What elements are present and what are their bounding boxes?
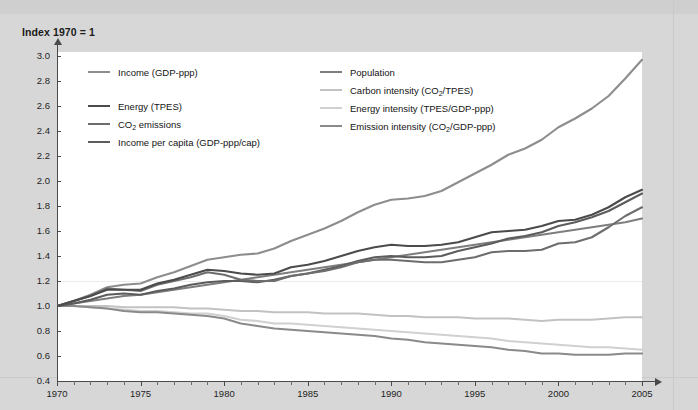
y-tick-label: 2.6 <box>26 100 50 111</box>
x-tick-label: 1975 <box>121 388 161 399</box>
y-tick-label: 1.8 <box>26 200 50 211</box>
legend-label-income_per_capita: Income per capita (GDP-ppp/cap) <box>118 137 260 148</box>
gridline-1-2 <box>57 281 642 282</box>
chart-page: Index 1970 = 1 3.02.82.62.42.22.01.81.61… <box>0 0 698 410</box>
legend-swatch-energy_intensity <box>320 107 342 110</box>
x-tick-mark-minor <box>625 381 626 385</box>
y-axis-arrow-icon <box>54 38 62 45</box>
y-tick-mark <box>57 331 61 332</box>
y-tick-label: 2.8 <box>26 75 50 86</box>
legend-right-column: PopulationCarbon intensity (CO2/TPES)Ene… <box>320 66 495 132</box>
legend-label-energy: Energy (TPES) <box>118 101 182 112</box>
y-tick-label: 1.4 <box>26 250 50 261</box>
legend-label-income: Income (GDP-ppp) <box>118 67 198 78</box>
x-tick-mark-major <box>642 381 643 386</box>
y-tick-mark <box>57 131 61 132</box>
x-tick-mark-minor <box>425 381 426 385</box>
legend-item-carbon_intensity[interactable]: Carbon intensity (CO2/TPES) <box>320 84 495 96</box>
x-axis-arrow-icon <box>655 378 662 386</box>
x-tick-mark-minor <box>441 381 442 385</box>
legend-item-energy[interactable]: Energy (TPES) <box>88 100 260 112</box>
x-tick-mark-major <box>57 381 58 386</box>
y-tick-label: 3.0 <box>26 50 50 61</box>
legend-item-income[interactable]: Income (GDP-ppp) <box>88 66 260 78</box>
x-tick-mark-major <box>141 381 142 386</box>
legend-swatch-income_per_capita <box>88 141 110 144</box>
y-tick-label: 2.2 <box>26 150 50 161</box>
y-tick-label: 2.0 <box>26 175 50 186</box>
y-tick-label: 0.6 <box>26 350 50 361</box>
legend-swatch-emission_intensity <box>320 125 342 128</box>
x-axis-line <box>57 381 655 382</box>
y-tick-mark <box>57 356 61 357</box>
legend-item-income_per_capita[interactable]: Income per capita (GDP-ppp/cap) <box>88 136 260 148</box>
x-tick-mark-minor <box>324 381 325 385</box>
x-tick-mark-minor <box>609 381 610 385</box>
y-tick-label: 0.8 <box>26 325 50 336</box>
x-tick-mark-major <box>224 381 225 386</box>
x-tick-mark-minor <box>375 381 376 385</box>
y-tick-label: 1.6 <box>26 225 50 236</box>
y-tick-mark <box>57 156 61 157</box>
y-tick-mark <box>57 231 61 232</box>
x-tick-label: 2005 <box>622 388 662 399</box>
y-tick-label: 0.4 <box>26 375 50 386</box>
x-tick-mark-minor <box>207 381 208 385</box>
x-tick-mark-minor <box>191 381 192 385</box>
x-tick-mark-major <box>558 381 559 386</box>
legend-swatch-income <box>88 71 110 74</box>
legend-swatch-energy <box>88 105 110 108</box>
legend-item-population[interactable]: Population <box>320 66 495 78</box>
x-tick-mark-minor <box>341 381 342 385</box>
y-tick-mark <box>57 306 61 307</box>
legend-label-co2_emissions: CO2 emissions <box>118 119 181 130</box>
y-tick-label: 1.2 <box>26 275 50 286</box>
legend-label-carbon_intensity: Carbon intensity (CO2/TPES) <box>350 85 473 96</box>
x-tick-mark-major <box>308 381 309 386</box>
x-tick-mark-minor <box>107 381 108 385</box>
x-tick-label: 1985 <box>288 388 328 399</box>
x-tick-label: 1980 <box>204 388 244 399</box>
x-tick-mark-minor <box>408 381 409 385</box>
x-tick-mark-minor <box>258 381 259 385</box>
x-tick-mark-minor <box>241 381 242 385</box>
x-tick-mark-minor <box>492 381 493 385</box>
y-tick-mark <box>57 181 61 182</box>
x-tick-label: 1990 <box>371 388 411 399</box>
y-tick-mark <box>57 81 61 82</box>
x-tick-mark-minor <box>458 381 459 385</box>
x-tick-mark-minor <box>291 381 292 385</box>
legend-item-emission_intensity[interactable]: Emission intensity (CO2/GDP-ppp) <box>320 120 495 132</box>
page-top-shade <box>0 0 698 14</box>
page-title: Index 1970 = 1 <box>22 26 95 38</box>
x-tick-mark-minor <box>358 381 359 385</box>
x-tick-mark-minor <box>592 381 593 385</box>
legend-label-emission_intensity: Emission intensity (CO2/GDP-ppp) <box>350 121 495 132</box>
legend-item-energy_intensity[interactable]: Energy intensity (TPES/GDP-ppp) <box>320 102 495 114</box>
legend-label-energy_intensity: Energy intensity (TPES/GDP-ppp) <box>350 103 494 114</box>
x-tick-mark-minor <box>508 381 509 385</box>
y-tick-label: 2.4 <box>26 125 50 136</box>
x-tick-mark-minor <box>174 381 175 385</box>
x-tick-label: 1970 <box>37 388 77 399</box>
x-tick-mark-minor <box>157 381 158 385</box>
x-tick-mark-major <box>475 381 476 386</box>
y-tick-label: 1.0 <box>26 300 50 311</box>
x-tick-mark-minor <box>74 381 75 385</box>
y-tick-mark <box>57 256 61 257</box>
x-tick-mark-minor <box>274 381 275 385</box>
y-tick-mark <box>57 56 61 57</box>
y-tick-mark <box>57 206 61 207</box>
x-tick-mark-major <box>391 381 392 386</box>
y-tick-mark <box>57 281 61 282</box>
legend-swatch-carbon_intensity <box>320 89 342 92</box>
x-tick-mark-minor <box>525 381 526 385</box>
y-tick-mark <box>57 106 61 107</box>
x-tick-mark-minor <box>90 381 91 385</box>
legend-item-co2_emissions[interactable]: CO2 emissions <box>88 118 260 130</box>
legend-label-population: Population <box>350 67 395 78</box>
x-tick-label: 2000 <box>538 388 578 399</box>
page-edge-vertical <box>673 0 674 410</box>
legend-left-column: Income (GDP-ppp)Energy (TPES)CO2 emissio… <box>88 66 260 148</box>
x-tick-label: 1995 <box>455 388 495 399</box>
